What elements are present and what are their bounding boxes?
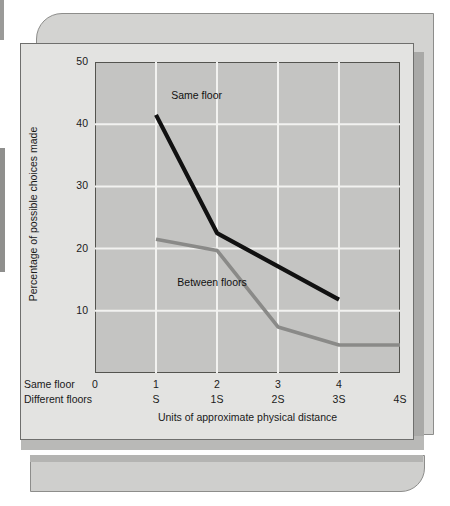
y-axis-title: Percentage of possible choices made <box>27 119 39 309</box>
plot-area <box>95 62 400 373</box>
y-tick-label-30: 30 <box>58 179 88 191</box>
figure-root: 1020304050 01234S1S2S3S4S Same floor Dif… <box>0 0 450 506</box>
x-tick-label-r0-0: 0 <box>75 378 115 390</box>
page-edge-sliver-top <box>0 0 4 40</box>
x-axis-title: Units of approximate physical distance <box>95 411 400 423</box>
series-annotation-same-floor: Same floor <box>171 89 222 101</box>
card-bottom-shade <box>30 455 423 462</box>
x-axis-row-label-different-floors: Different floors <box>24 393 92 405</box>
x-tick-label-r1-S: S <box>136 393 176 405</box>
y-tick-label-20: 20 <box>58 242 88 254</box>
y-tick-label-10: 10 <box>58 304 88 316</box>
page-edge-sliver <box>0 148 5 272</box>
x-tick-label-r1-4S: 4S <box>380 393 420 405</box>
y-tick-label-50: 50 <box>58 55 88 67</box>
x-axis-row-label-same-floor: Same floor <box>24 378 75 390</box>
x-tick-label-r1-2S: 2S <box>258 393 298 405</box>
series-annotation-between-floors: Between floors <box>177 276 246 288</box>
x-tick-label-r0-2: 2 <box>197 378 237 390</box>
x-tick-label-r0-3: 3 <box>258 378 298 390</box>
y-tick-label-40: 40 <box>58 117 88 129</box>
x-tick-label-r0-4: 4 <box>319 378 359 390</box>
x-tick-label-r1-3S: 3S <box>319 393 359 405</box>
x-tick-label-r1-1S: 1S <box>197 393 237 405</box>
x-tick-label-r0-1: 1 <box>136 378 176 390</box>
